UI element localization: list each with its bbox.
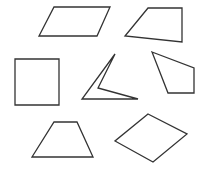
parallelogram-shape	[39, 7, 110, 36]
shapes-diagram	[0, 0, 206, 171]
rhombus-shape	[115, 114, 187, 162]
right-trapezoid-shape	[125, 8, 182, 42]
irregular-quadrilateral-shape	[152, 52, 194, 93]
square-shape	[15, 59, 59, 105]
isosceles-trapezoid-shape	[32, 122, 93, 157]
concave-quadrilateral-shape	[82, 54, 138, 99]
